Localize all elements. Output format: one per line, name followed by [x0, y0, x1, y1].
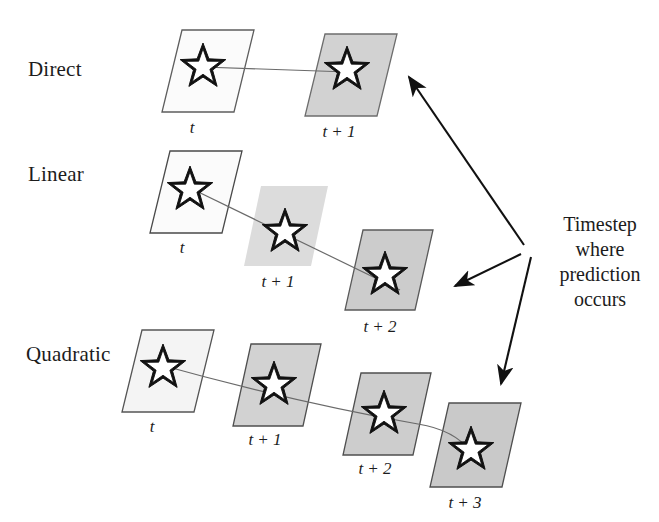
step-label-quadratic-3: t + 3 — [448, 493, 481, 513]
step-label-linear-0: t — [180, 238, 185, 258]
timestep-cells-layer — [122, 30, 521, 487]
arrow-to-quadratic — [501, 257, 531, 384]
prediction-strategies-diagram: Direct Linear Quadratic tt + 1tt + 1t + … — [0, 0, 659, 522]
row-label-linear: Linear — [28, 162, 84, 187]
step-label-direct-0: t — [190, 118, 195, 138]
row-label-quadratic: Quadratic — [26, 342, 111, 367]
annotation-line-1: Timestep — [548, 212, 652, 237]
arrow-to-direct — [409, 77, 524, 245]
step-label-quadratic-1: t + 1 — [248, 430, 281, 450]
annotation-line-2: where — [548, 237, 652, 262]
step-label-linear-2: t + 2 — [363, 317, 396, 337]
annotation-line-3: prediction — [548, 262, 652, 287]
annotation-caption: Timestep where prediction occurs — [548, 212, 652, 312]
row-label-direct: Direct — [28, 57, 82, 82]
step-label-direct-1: t + 1 — [322, 122, 355, 142]
step-label-quadratic-0: t — [150, 417, 155, 437]
step-label-quadratic-2: t + 2 — [358, 459, 391, 479]
arrow-to-linear — [455, 254, 521, 286]
annotation-line-4: occurs — [548, 287, 652, 312]
step-label-linear-1: t + 1 — [261, 272, 294, 292]
